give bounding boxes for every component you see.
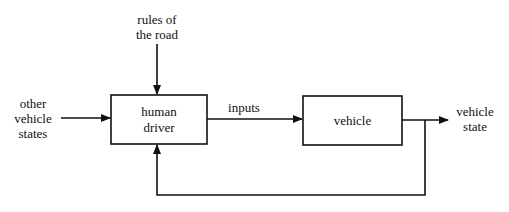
other-states-line1: other — [8, 96, 58, 111]
vehicle-state-label: vehicle state — [450, 104, 500, 134]
other-vehicle-states-label: other vehicle states — [8, 96, 58, 141]
rules-line1: rules of — [127, 12, 187, 27]
human-driver-label: human driver — [111, 95, 207, 144]
vehicle-label-text: vehicle — [334, 113, 372, 129]
other-states-line3: states — [8, 126, 58, 141]
vehicle-state-line1: vehicle — [450, 104, 500, 119]
rules-line2: the road — [127, 27, 187, 42]
rules-of-the-road-label: rules of the road — [127, 12, 187, 42]
inputs-label: inputs — [222, 100, 266, 115]
vehicle-label: vehicle — [303, 96, 402, 145]
other-states-line2: vehicle — [8, 111, 58, 126]
vehicle-state-line2: state — [450, 119, 500, 134]
human-driver-label-line2: driver — [143, 120, 174, 136]
human-driver-label-line1: human — [141, 104, 176, 120]
